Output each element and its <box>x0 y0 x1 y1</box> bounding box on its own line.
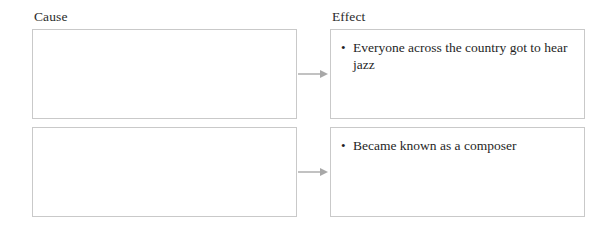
cause-box-1-content[interactable] <box>33 30 296 118</box>
effect-box-2-bullet-list: • Became known as a composer <box>331 128 584 154</box>
effect-box-2-text: Became known as a composer <box>353 138 516 153</box>
cause-box-2[interactable] <box>32 127 297 217</box>
organizer-row: • Everyone across the country got to hea… <box>0 29 613 119</box>
cause-effect-organizer: Cause Effect • Everyone across the count… <box>0 0 613 236</box>
list-item: • Everyone across the country got to hea… <box>353 39 574 73</box>
column-heading-cause: Cause <box>34 9 68 24</box>
list-item: • Became known as a composer <box>353 137 574 154</box>
cause-box-1[interactable] <box>32 29 297 119</box>
cause-box-2-content[interactable] <box>33 128 296 216</box>
bullet-icon: • <box>341 137 346 154</box>
organizer-row: • Became known as a composer <box>0 127 613 217</box>
effect-box-1-bullet-list: • Everyone across the country got to hea… <box>331 30 584 73</box>
effect-box-1[interactable]: • Everyone across the country got to hea… <box>330 29 585 119</box>
right-arrow-icon <box>297 165 329 179</box>
right-arrow-icon <box>297 67 329 81</box>
effect-box-2[interactable]: • Became known as a composer <box>330 127 585 217</box>
bullet-icon: • <box>341 39 346 56</box>
effect-box-1-text: Everyone across the country got to hear … <box>353 40 567 72</box>
column-heading-effect: Effect <box>332 9 365 24</box>
